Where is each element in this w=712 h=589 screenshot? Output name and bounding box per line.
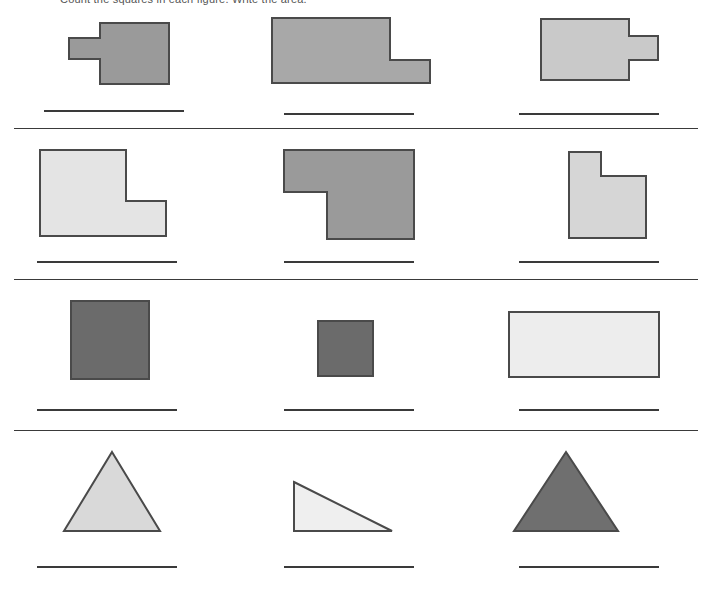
page-title: Count the squares in each figure. Write … [60, 0, 307, 5]
figure-light-triangle [62, 450, 163, 534]
figure-dark-triangle [512, 450, 621, 534]
answer-line-r2c2[interactable] [284, 261, 414, 263]
answer-line-r1c2[interactable] [284, 113, 414, 115]
figure-small-dark-square [317, 320, 376, 379]
divider-after-row-1 [14, 128, 698, 129]
answer-line-r4c2[interactable] [284, 566, 414, 568]
figure-large-dark-square [70, 300, 152, 382]
answer-line-r2c1[interactable] [37, 261, 177, 263]
divider-after-row-2 [14, 279, 698, 280]
figure-rect-with-left-tab [32, 12, 174, 86]
figure-light-wide-rectangle [508, 311, 662, 380]
divider-after-row-3 [14, 430, 698, 431]
figure-L-lower-right-extension [262, 12, 442, 88]
answer-line-r3c3[interactable] [519, 409, 659, 411]
figure-square-notched-upper-right [567, 150, 649, 242]
figure-rect-with-right-tab [540, 12, 662, 84]
answer-line-r4c1[interactable] [37, 566, 177, 568]
figure-L-shape-notched-upper-right [38, 148, 170, 240]
answer-line-r3c1[interactable] [37, 409, 177, 411]
answer-line-r1c1[interactable] [44, 110, 184, 112]
answer-line-r4c3[interactable] [519, 566, 659, 568]
answer-line-r2c3[interactable] [519, 261, 659, 263]
worksheet-page: Count the squares in each figure. Write … [0, 0, 712, 589]
figure-right-triangle [292, 480, 395, 534]
figure-L-shape-notched-lower-left [283, 148, 417, 242]
answer-line-r3c2[interactable] [284, 409, 414, 411]
answer-line-r1c3[interactable] [519, 113, 659, 115]
